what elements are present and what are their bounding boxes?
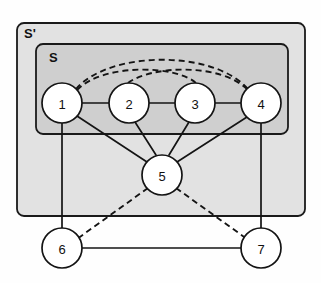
- diagram-canvas: S' S 1 2: [0, 0, 321, 283]
- region-label-s-prime: S': [24, 26, 36, 41]
- node-5[interactable]: 5: [142, 155, 182, 195]
- node-5-label: 5: [158, 169, 165, 184]
- region-label-s: S: [49, 50, 58, 65]
- graph-svg: S' S 1 2: [0, 0, 321, 283]
- node-3-label: 3: [191, 97, 198, 112]
- node-2[interactable]: 2: [109, 83, 149, 123]
- node-3[interactable]: 3: [175, 83, 215, 123]
- node-4[interactable]: 4: [241, 83, 281, 123]
- node-2-label: 2: [125, 97, 132, 112]
- node-6-label: 6: [58, 242, 65, 257]
- node-7-label: 7: [257, 242, 264, 257]
- node-7[interactable]: 7: [241, 228, 281, 268]
- node-1[interactable]: 1: [42, 83, 82, 123]
- node-6[interactable]: 6: [42, 228, 82, 268]
- node-4-label: 4: [257, 97, 264, 112]
- node-1-label: 1: [58, 97, 65, 112]
